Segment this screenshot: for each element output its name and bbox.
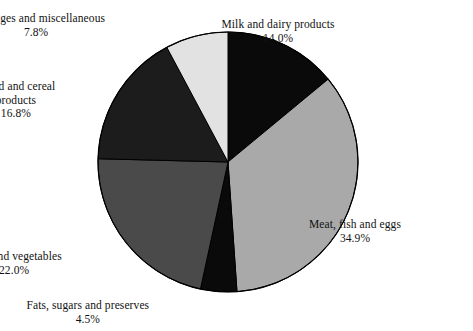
slice-label-bread-name-line1: Bread and cereal	[0, 80, 55, 94]
slice-label-bread-name-line2: products	[0, 94, 55, 108]
slice-label-milk-value: 14.0%	[222, 32, 335, 46]
slice-label-bread-and-cereal-products: Bread and cereal products 16.8%	[0, 80, 55, 121]
slice-label-fats-value: 4.5%	[27, 313, 150, 327]
pie-chart-graphic	[0, 0, 473, 331]
slice-label-fruit-and-vegetables: Fruit and vegetables 22.0%	[0, 250, 62, 277]
slice-label-beverages-name: Beverages and miscellaneous	[0, 12, 105, 26]
slice-label-bread-value: 16.8%	[0, 107, 55, 121]
slice-label-fruit-name: Fruit and vegetables	[0, 250, 62, 264]
slice-label-beverages-and-miscellaneous: Beverages and miscellaneous 7.8%	[0, 12, 105, 39]
slice-label-milk-and-dairy-products: Milk and dairy products 14.0%	[222, 18, 335, 45]
pie-chart: Beverages and miscellaneous 7.8% Milk an…	[0, 0, 473, 331]
slice-label-fats-name: Fats, sugars and preserves	[27, 299, 150, 313]
slice-label-milk-name: Milk and dairy products	[222, 18, 335, 32]
slice-label-fats-sugars-and-preserves: Fats, sugars and preserves 4.5%	[27, 299, 150, 326]
slice-label-beverages-value: 7.8%	[0, 26, 105, 40]
slice-label-fruit-value: 22.0%	[0, 264, 62, 278]
slice-label-meat-name: Meat, fish and eggs	[309, 218, 401, 232]
slice-label-meat-fish-and-eggs: Meat, fish and eggs 34.9%	[309, 218, 401, 245]
slice-label-meat-value: 34.9%	[309, 232, 401, 246]
